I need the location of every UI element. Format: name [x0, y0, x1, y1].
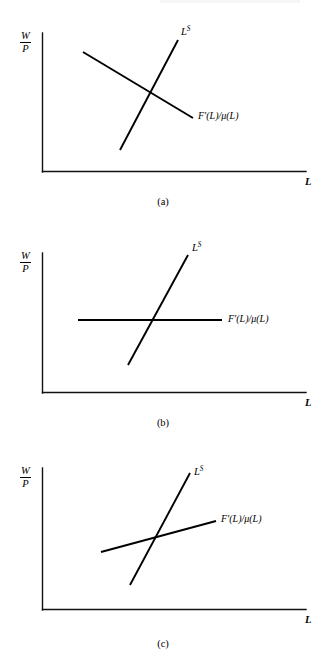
labor-demand-label: F'(L)/μ(L) — [198, 111, 239, 121]
y-axis-label-denominator: P — [20, 478, 31, 490]
panel-c-plot — [0, 440, 326, 630]
y-axis-label: W P — [20, 250, 31, 275]
figure-labor-market-diagrams: W P LS F'(L)/μ(L) L (a) W P LS F'(L)/μ(L… — [0, 0, 326, 660]
labor-supply-label: LS — [181, 27, 190, 38]
x-axis-label: L — [305, 177, 311, 188]
labor-demand-label: F'(L)/μ(L) — [221, 514, 262, 524]
x-axis-label: L — [305, 615, 311, 626]
labor-supply-label-superscript: S — [200, 465, 204, 473]
labor-supply-curve — [128, 255, 188, 365]
labor-supply-label: LS — [194, 467, 203, 478]
labor-demand-curve — [101, 521, 216, 552]
labor-demand-curve — [83, 52, 193, 118]
panel-a-plot — [0, 0, 326, 190]
y-axis-label-numerator: W — [20, 465, 31, 478]
panel-a-caption: (a) — [0, 196, 326, 207]
labor-supply-label-superscript: S — [198, 241, 202, 249]
labor-demand-label: F'(L)/μ(L) — [228, 314, 269, 324]
labor-supply-label-superscript: S — [187, 25, 191, 33]
labor-supply-curve — [130, 473, 190, 585]
labor-supply-curve — [120, 40, 178, 150]
panel-b-plot — [0, 221, 326, 411]
labor-supply-label: LS — [192, 243, 201, 254]
y-axis-label: W P — [20, 465, 31, 490]
panel-c: W P LS F'(L)/μ(L) L (c) — [0, 440, 326, 660]
y-axis-label-numerator: W — [20, 250, 31, 263]
y-axis-label-denominator: P — [20, 263, 31, 275]
y-axis-label-numerator: W — [20, 30, 31, 43]
panel-a: W P LS F'(L)/μ(L) L (a) — [0, 0, 326, 215]
panel-b-caption: (b) — [0, 417, 326, 428]
panel-b: W P LS F'(L)/μ(L) L (b) — [0, 221, 326, 436]
y-axis-label: W P — [20, 30, 31, 55]
x-axis-label: L — [305, 398, 311, 409]
y-axis-label-denominator: P — [20, 43, 31, 55]
panel-c-caption: (c) — [0, 638, 326, 649]
